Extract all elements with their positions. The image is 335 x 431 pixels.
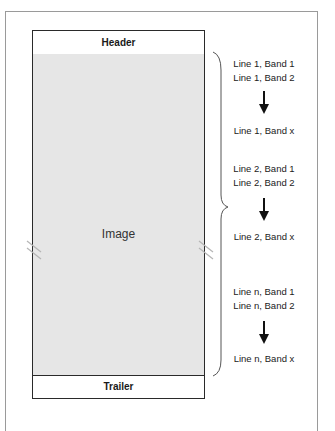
line2-bandx: Line 2, Band x xyxy=(226,231,302,242)
linen-band2: Line n, Band 2 xyxy=(226,300,302,311)
down-arrow-icon xyxy=(259,198,269,222)
down-arrow-icon xyxy=(259,321,269,345)
linen-bandx: Line n, Band x xyxy=(226,353,302,364)
line1-band1: Line 1, Band 1 xyxy=(226,58,302,69)
break-mark-right-icon xyxy=(199,241,213,259)
line1-bandx: Line 1, Band x xyxy=(226,125,302,136)
line2-band1: Line 2, Band 1 xyxy=(226,163,302,174)
curly-brace-icon xyxy=(213,52,228,376)
line2-band2: Line 2, Band 2 xyxy=(226,177,302,188)
break-mark-left-icon xyxy=(27,241,41,259)
linen-band1: Line n, Band 1 xyxy=(226,286,302,297)
line1-band2: Line 1, Band 2 xyxy=(226,72,302,83)
down-arrow-icon xyxy=(259,91,269,115)
